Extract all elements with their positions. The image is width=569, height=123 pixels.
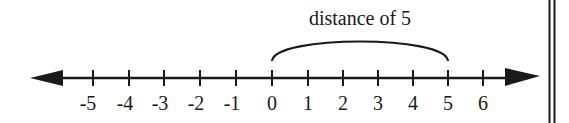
- tick-label: 2: [338, 92, 348, 114]
- distance-annotation: distance of 5: [309, 7, 411, 29]
- tick-label: -3: [152, 92, 169, 114]
- number-line-diagram: -5 -4 -3 -2 -1 0 1 2 3 4 5 6 distance of…: [0, 0, 569, 123]
- tick-label: 5: [443, 92, 453, 114]
- right-arrow-icon: [505, 68, 540, 86]
- tick-label: -5: [80, 92, 97, 114]
- distance-arc: [272, 42, 448, 62]
- left-arrow-icon: [30, 70, 63, 86]
- tick-label: -1: [224, 92, 241, 114]
- tick-label: 3: [373, 92, 383, 114]
- tick-labels: -5 -4 -3 -2 -1 0 1 2 3 4 5 6: [80, 92, 488, 114]
- tick-label: 0: [267, 92, 277, 114]
- tick-label: 4: [408, 92, 418, 114]
- tick-label: 6: [478, 92, 488, 114]
- tick-label: 1: [303, 92, 313, 114]
- tick-label: -2: [188, 92, 205, 114]
- tick-label: -4: [117, 92, 134, 114]
